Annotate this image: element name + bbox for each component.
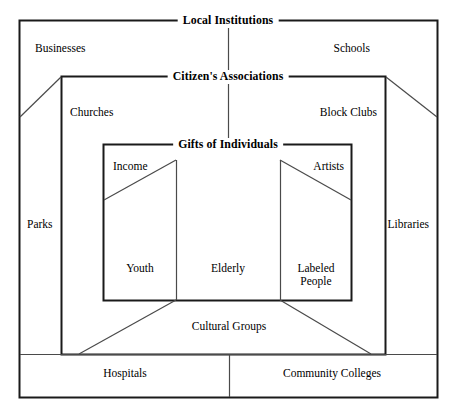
label-churches: Churches xyxy=(70,106,113,119)
inner-box-title: Gifts of Individuals xyxy=(173,138,283,151)
label-community-colleges: Community Colleges xyxy=(283,367,381,380)
label-businesses: Businesses xyxy=(35,42,85,55)
diagonal-middle-bottom-left xyxy=(79,300,176,354)
label-hospitals: Hospitals xyxy=(103,367,146,380)
label-youth: Youth xyxy=(126,262,154,275)
label-labeled-people-line2: People xyxy=(300,275,331,287)
label-artists: Artists xyxy=(313,160,344,173)
outer-box-title: Local Institutions xyxy=(178,14,279,27)
diagonal-outer-top-right xyxy=(386,77,437,117)
diagram-line-art xyxy=(0,0,459,418)
label-labeled-people-line1: Labeled xyxy=(297,262,334,274)
community-assets-diagram: Local Institutions Citizen's Association… xyxy=(0,0,459,418)
label-cultural-groups: Cultural Groups xyxy=(192,320,266,333)
label-schools: Schools xyxy=(334,42,370,55)
diagonal-outer-top-left xyxy=(20,77,61,117)
label-elderly: Elderly xyxy=(211,262,245,275)
label-labeled-people: LabeledPeople xyxy=(297,262,334,288)
middle-box-title: Citizen's Associations xyxy=(168,70,289,83)
label-parks: Parks xyxy=(27,218,53,231)
diagonal-middle-bottom-right xyxy=(280,300,371,354)
label-income: Income xyxy=(113,160,147,173)
label-block-clubs: Block Clubs xyxy=(320,106,377,119)
label-libraries: Libraries xyxy=(387,218,429,231)
